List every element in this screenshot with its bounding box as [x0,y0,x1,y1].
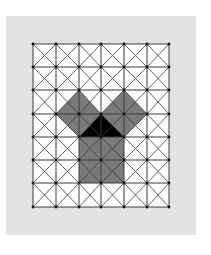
grid-dot [146,136,149,139]
grid-dot [146,113,149,116]
grid-dot [146,89,149,92]
grid-dot [168,89,171,92]
grid-dot [32,43,35,46]
grid-dot [32,159,35,162]
grid-dot [32,182,35,185]
grid-dot [78,66,81,69]
grid-dot [168,206,171,209]
grid-dot [168,43,171,46]
grid-dot [123,182,126,185]
grid-dot [78,159,81,162]
grid-dot [123,159,126,162]
grid-dot [123,66,126,69]
grid-dot [100,182,103,185]
grid-dot [78,43,81,46]
pythagoras-grid-diagram [0,0,211,255]
grid-dot [146,66,149,69]
grid-dot [146,182,149,185]
grid-dot [32,66,35,69]
grid-dot [100,136,103,139]
grid-dot [55,159,58,162]
grid-dot [78,206,81,209]
grid-dot [55,113,58,116]
grid-dot [55,66,58,69]
grid-dot [168,136,171,139]
grid-dot [55,43,58,46]
grid-dot [123,43,126,46]
grid-dot [123,113,126,116]
grid-dot [55,89,58,92]
grid-dot [123,206,126,209]
grid-dot [100,43,103,46]
grid-dot [146,43,149,46]
grid-dot [78,113,81,116]
grid-dot [168,66,171,69]
grid-dot [78,136,81,139]
grid-dot [168,182,171,185]
grid-dot [168,159,171,162]
grid-dot [78,89,81,92]
grid-dot [100,89,103,92]
grid-dot [123,89,126,92]
grid-dot [55,136,58,139]
grid-dot [100,159,103,162]
grid-dot [123,136,126,139]
grid-dot [168,113,171,116]
grid-dot [32,206,35,209]
grid-dot [100,113,103,116]
grid-dot [100,66,103,69]
grid-dot [55,182,58,185]
grid-dot [55,206,58,209]
grid-dot [32,113,35,116]
grid-dot [78,182,81,185]
grid-dot [100,206,103,209]
grid-dot [146,206,149,209]
grid-dot [146,159,149,162]
grid-dot [32,89,35,92]
grid-dot [32,136,35,139]
